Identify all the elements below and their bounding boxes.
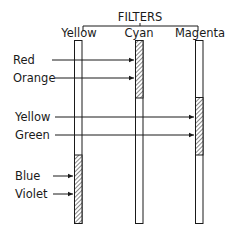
light-label-blue: Blue bbox=[15, 169, 40, 183]
light-label-violet: Violet bbox=[15, 187, 48, 201]
absorption-band-cyan bbox=[136, 41, 144, 99]
filters-title: FILTERS bbox=[118, 10, 162, 24]
filter-bar-magenta bbox=[196, 41, 204, 224]
absorption-band-yellow bbox=[75, 155, 83, 224]
filter-diagram: FILTERS Yellow Cyan Magenta Red Orange Y… bbox=[0, 0, 235, 227]
filter-bar-yellow bbox=[75, 41, 83, 224]
light-label-yellow: Yellow bbox=[14, 110, 50, 124]
filter-label-yellow: Yellow bbox=[60, 26, 96, 40]
filter-label-magenta: Magenta bbox=[175, 26, 225, 40]
light-label-green: Green bbox=[15, 128, 50, 142]
filter-bar-cyan bbox=[136, 41, 144, 224]
light-label-orange: Orange bbox=[13, 71, 56, 85]
absorption-band-magenta bbox=[196, 98, 204, 156]
filter-label-cyan: Cyan bbox=[124, 26, 153, 40]
light-label-red: Red bbox=[13, 53, 35, 67]
